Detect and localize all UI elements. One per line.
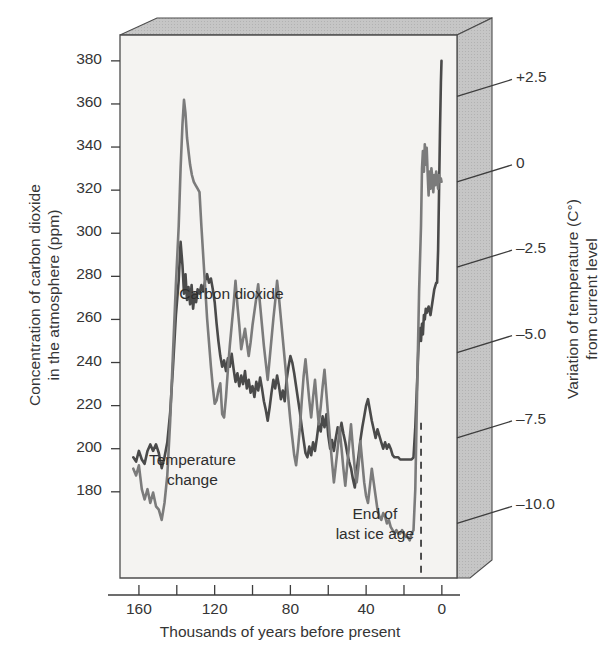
right-tick-label: –7.5 <box>516 410 586 428</box>
box-right-face <box>457 18 492 578</box>
right-tick-label: 0 <box>516 154 586 172</box>
left-tick-label: 340 <box>42 136 102 154</box>
right-tick-label: –10.0 <box>516 495 586 513</box>
x-tick-label: 160 <box>109 600 169 618</box>
left-tick-label: 180 <box>42 481 102 499</box>
box-top-face <box>120 18 492 35</box>
left-tick-label: 260 <box>42 308 102 326</box>
right-tick-label: +2.5 <box>516 68 586 86</box>
left-tick-label: 360 <box>42 93 102 111</box>
temperature-change-label: Temperaturechange <box>149 450 236 490</box>
end-of-last-ice-age-label-line1: End of <box>336 504 414 524</box>
right-tick-label: –2.5 <box>516 239 586 257</box>
left-tick-label: 220 <box>42 395 102 413</box>
carbon-dioxide-label: Carbon dioxide <box>179 284 283 304</box>
left-tick-label: 320 <box>42 179 102 197</box>
x-tick-label: 80 <box>260 600 320 618</box>
right-tick-label: –5.0 <box>516 325 586 343</box>
left-tick-label: 380 <box>42 50 102 68</box>
x-tick-label: 0 <box>412 600 472 618</box>
co2-temperature-chart: Concentration of carbon dioxide in the a… <box>0 0 611 663</box>
end-of-last-ice-age-label: End oflast ice age <box>336 504 414 544</box>
left-axis-ticks <box>111 61 120 492</box>
x-axis-ticks <box>108 585 460 595</box>
left-tick-label: 240 <box>42 352 102 370</box>
temperature-change-label-line1: Temperature <box>149 450 236 470</box>
x-tick-label: 120 <box>185 600 245 618</box>
x-tick-label: 40 <box>336 600 396 618</box>
box-front-face <box>120 35 457 578</box>
left-tick-label: 280 <box>42 265 102 283</box>
end-of-last-ice-age-label-line2: last ice age <box>336 524 414 544</box>
left-tick-label: 300 <box>42 222 102 240</box>
left-tick-label: 200 <box>42 438 102 456</box>
temperature-change-label-line2: change <box>149 470 236 490</box>
